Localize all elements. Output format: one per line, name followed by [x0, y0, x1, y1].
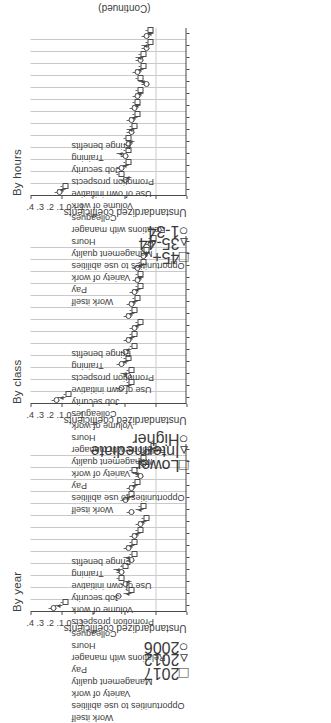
- legend-entry: □45+: [152, 248, 188, 266]
- data-point: [147, 27, 153, 33]
- gridline: [30, 343, 186, 344]
- category-label: Job security: [71, 165, 191, 175]
- data-point: [137, 87, 143, 93]
- continued-note: (Continued): [98, 3, 150, 14]
- category-tick: [186, 81, 189, 82]
- gridline: [30, 123, 186, 124]
- category-tick: [186, 105, 189, 106]
- data-point: [137, 75, 143, 81]
- panel-title-by-year: By year: [10, 572, 22, 612]
- category-tick: [186, 313, 189, 314]
- gridline: [30, 527, 186, 528]
- data-point: [137, 319, 143, 325]
- gridline: [30, 295, 186, 296]
- legend-entry: □Lower: [135, 456, 188, 474]
- gridline: [30, 551, 186, 552]
- data-point: [131, 343, 137, 349]
- value-tick: [61, 196, 62, 199]
- category-label: Work itself: [71, 297, 191, 307]
- category-label: Opportunities to use abilities: [71, 493, 191, 503]
- gridline: [30, 515, 186, 516]
- category-tick: [186, 545, 189, 546]
- axis-title-by-year: Unstandardized coefficients: [63, 623, 186, 634]
- gridline: [30, 99, 186, 100]
- data-point: [128, 313, 132, 317]
- gridline: [30, 319, 186, 320]
- gridline: [30, 539, 186, 540]
- data-point: [131, 307, 137, 313]
- data-point: [137, 57, 141, 61]
- gridline: [30, 283, 186, 284]
- category-tick: [186, 521, 189, 522]
- gridline: [30, 111, 186, 112]
- data-point: [62, 599, 68, 605]
- category-label: Volume of work: [71, 605, 191, 615]
- data-point: [131, 551, 137, 557]
- gridline: [30, 75, 186, 76]
- legend-entry: □2017: [143, 664, 188, 682]
- category-tick: [186, 117, 189, 118]
- data-point: [125, 135, 131, 141]
- square-marker-icon: □: [179, 664, 188, 682]
- data-point: [131, 117, 135, 121]
- square-marker-icon: □: [179, 456, 188, 474]
- data-point: [134, 533, 138, 537]
- category-label: Work itself: [71, 505, 191, 515]
- axis-title-by-hours: Unstandardized coefficients: [63, 207, 186, 218]
- category-label: Use of own initiative: [71, 581, 191, 591]
- category-label: Use of own initiative: [71, 385, 191, 395]
- data-point: [137, 93, 141, 97]
- category-label: Job security: [71, 397, 191, 407]
- value-tick: [61, 404, 62, 407]
- data-point: [128, 545, 132, 549]
- gridline: [30, 51, 186, 52]
- category-label: Variety of work: [71, 689, 191, 699]
- data-point: [131, 331, 137, 337]
- data-point: [137, 527, 143, 533]
- category-label: Fringe benefits: [71, 141, 191, 151]
- legend-label: 2017: [143, 665, 179, 682]
- data-point: [143, 515, 149, 521]
- data-point: [140, 521, 144, 525]
- value-tick: [30, 196, 31, 199]
- category-label: Variety of work: [71, 273, 191, 283]
- category-label: Work itself: [71, 713, 191, 723]
- category-tick: [186, 129, 189, 130]
- data-point: [134, 105, 138, 109]
- category-label: Opportunities to use abilities: [71, 701, 191, 711]
- gridline: [30, 271, 186, 272]
- data-point: [134, 111, 140, 117]
- data-point: [56, 605, 60, 609]
- data-point: [134, 99, 140, 105]
- category-tick: [186, 337, 189, 338]
- panel-title-by-class: By class: [10, 360, 22, 404]
- square-marker-icon: □: [179, 248, 188, 266]
- gridline: [30, 307, 186, 308]
- data-point: [131, 123, 137, 129]
- category-label: Training: [71, 569, 191, 579]
- category-label: Promotion prospects: [71, 373, 191, 383]
- gridline: [30, 503, 186, 504]
- category-label: Pay: [71, 481, 191, 491]
- axis-title-by-class: Unstandardized coefficients: [63, 415, 186, 426]
- data-point: [128, 337, 132, 341]
- category-tick: [186, 33, 189, 34]
- data-point: [134, 325, 138, 329]
- gridline: [30, 39, 186, 40]
- category-tick: [186, 45, 189, 46]
- panel-title-by-hours: By hours: [10, 149, 22, 196]
- data-point: [143, 45, 147, 49]
- gridline: [30, 135, 186, 136]
- category-label: Job security: [71, 593, 191, 603]
- category-tick: [186, 57, 189, 58]
- category-label: Fringe benefits: [71, 557, 191, 567]
- data-point: [140, 63, 146, 69]
- legend-label: Lower: [135, 457, 179, 474]
- data-point: [131, 539, 137, 545]
- data-point: [140, 81, 144, 85]
- category-label: Training: [71, 361, 191, 371]
- category-tick: [186, 69, 189, 70]
- category-tick: [186, 325, 189, 326]
